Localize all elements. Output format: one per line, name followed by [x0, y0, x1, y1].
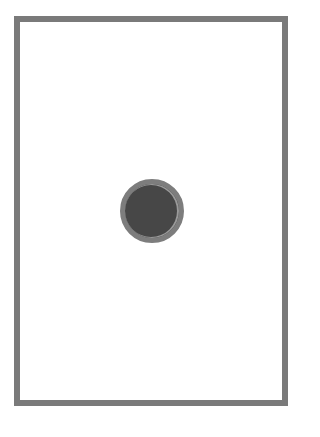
circle-dot-icon[interactable] — [120, 179, 184, 243]
